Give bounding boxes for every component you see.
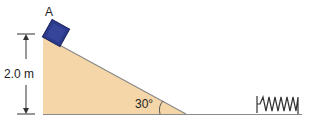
height-label: 2.0 m [4,68,34,80]
angle-label: 30° [135,98,153,110]
block-label: A [45,6,53,18]
incline-diagram [0,0,310,129]
spring [257,96,298,114]
